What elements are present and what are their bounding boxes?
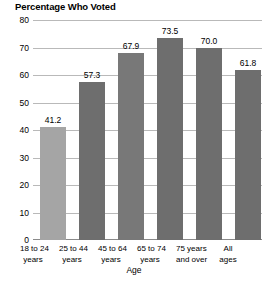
x-tick-line-1: 45 to 64 [98,244,124,255]
x-tick-label-18-to-24-years: 18 to 24 years [20,244,46,265]
x-axis-title: Age [0,266,268,275]
x-tick-label-all-ages: All ages [215,244,241,265]
x-tick-line-1: 65 to 74 [137,244,163,255]
y-tick-label: 50 [9,99,29,108]
bar-45-to-64-years: 67.9 [118,53,144,240]
bar-value-label: 57.3 [84,71,101,80]
y-tick-label: 40 [9,126,29,135]
bar-75-years-and-over: 70.0 [196,48,222,241]
plot-area: 41.2 57.3 67.9 73.5 70.0 61.8 [33,20,262,240]
x-tick-line-2: ages [215,255,241,266]
x-tick-line-1: 25 to 44 [59,244,85,255]
y-tick-label: 20 [9,181,29,190]
x-tick-label-45-to-64-years: 45 to 64 years [98,244,124,265]
x-axis-line [33,239,262,240]
gridline-40 [33,130,262,131]
bar-chart: Percentage Who Voted 80 70 60 50 40 30 2… [0,0,268,288]
bar-65-to-74-years: 73.5 [157,38,183,240]
bar-18-to-24-years: 41.2 [40,127,66,240]
gridline-80 [33,20,262,21]
x-tick-label-65-to-74-years: 65 to 74 years [137,244,163,265]
x-tick-label-25-to-44-years: 25 to 44 years [59,244,85,265]
x-tick-line-2: and over [176,255,202,266]
y-tick-label: 30 [9,154,29,163]
bar-value-label: 70.0 [201,37,218,46]
x-tick-line-1: 75 years [176,244,202,255]
gridline-60 [33,75,262,76]
y-tick-label: 10 [9,209,29,218]
gridline-70 [33,48,262,49]
bar-value-label: 61.8 [240,59,257,68]
bar-value-label: 41.2 [45,116,62,125]
y-tick-label: 80 [9,16,29,25]
bar-25-to-44-years: 57.3 [79,82,105,240]
y-tick-label: 60 [9,71,29,80]
x-tick-line-1: All [215,244,241,255]
chart-title: Percentage Who Voted [15,1,116,12]
bar-value-label: 67.9 [123,42,140,51]
gridline-10 [33,213,262,214]
x-tick-label-75-years-and-over: 75 years and over [176,244,202,265]
x-tick-line-2: years [98,255,124,266]
x-tick-line-2: years [59,255,85,266]
x-tick-line-2: years [20,255,46,266]
y-tick-label: 70 [9,44,29,53]
gridline-30 [33,158,262,159]
x-tick-line-1: 18 to 24 [20,244,46,255]
gridline-50 [33,103,262,104]
gridline-20 [33,185,262,186]
x-tick-line-2: years [137,255,163,266]
bar-all-ages: 61.8 [235,70,261,240]
bar-value-label: 73.5 [162,27,179,36]
